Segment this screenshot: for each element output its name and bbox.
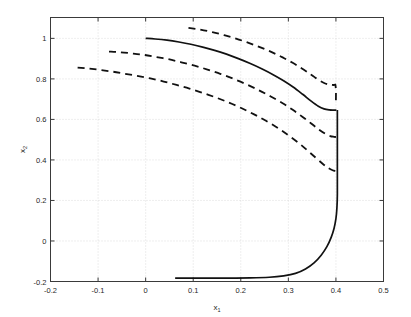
y-tick-label: 1: [42, 34, 46, 43]
x-tick-label: -0.1: [92, 286, 105, 295]
chart-plot: -0.2-0.100.10.20.30.40.5-0.200.20.40.60.…: [0, 0, 411, 317]
y-tick-label: -0.2: [34, 278, 47, 287]
x-tick-label: 0.5: [378, 286, 388, 295]
x-tick-label: -0.2: [44, 286, 57, 295]
gridlines-group: [51, 18, 384, 282]
y-axis-label: x2: [18, 146, 29, 153]
x-axis-label: x1: [213, 303, 220, 314]
curve-nominal-boundary-turn: [175, 110, 337, 278]
curve-perturbed-boundary-outer: [188, 28, 336, 105]
x-tick-label: 0.1: [188, 286, 198, 295]
y-tick-label: 0.8: [36, 75, 46, 84]
curves-group: [78, 28, 338, 278]
axes-frame: [51, 18, 384, 282]
x-tick-label: 0: [144, 286, 148, 295]
x-tick-label: 0.3: [283, 286, 293, 295]
y-tick-label: 0.2: [36, 196, 46, 205]
x-tick-label: 0.2: [236, 286, 246, 295]
y-tick-label: 0.6: [36, 115, 46, 124]
tick-labels-group: -0.2-0.100.10.20.30.40.5-0.200.20.40.60.…: [34, 34, 389, 294]
x-tick-label: 0.4: [331, 286, 341, 295]
tickmarks-group: [51, 18, 384, 282]
y-tick-label: 0.4: [36, 156, 46, 165]
y-tick-label: 0: [42, 237, 46, 246]
figure-canvas: -0.2-0.100.10.20.30.40.5-0.200.20.40.60.…: [0, 0, 411, 317]
